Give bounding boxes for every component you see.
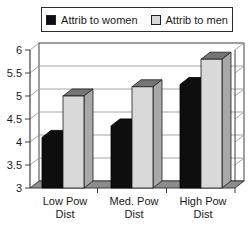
gridline-left-wall bbox=[30, 158, 39, 165]
bar-men-0 bbox=[63, 96, 84, 188]
y-tick-label: 5 bbox=[16, 90, 22, 102]
gridline-left-wall bbox=[30, 66, 39, 73]
y-tick-label: 3.5 bbox=[7, 159, 22, 171]
gridline-left-wall bbox=[30, 135, 39, 142]
gridline-left-wall bbox=[30, 89, 39, 96]
gridline-left-wall bbox=[30, 43, 39, 50]
y-tick-label: 5.5 bbox=[7, 67, 22, 79]
y-tick-label: 6 bbox=[16, 44, 22, 56]
y-tick-label: 4 bbox=[16, 136, 22, 148]
y-tick-label: 4.5 bbox=[7, 113, 22, 125]
bar-side-men-1 bbox=[153, 80, 162, 188]
bar-chart: 65.554.543.53Low PowDistMed. PowDistHigh… bbox=[0, 0, 248, 228]
figure: Attrib to women Attrib to men 65.554.543… bbox=[0, 0, 248, 228]
x-category-label: High Pow bbox=[179, 195, 226, 207]
x-category-label: Med. Pow bbox=[110, 195, 159, 207]
x-category-label: Dist bbox=[194, 208, 213, 220]
bar-men-2 bbox=[201, 59, 222, 188]
x-category-label: Dist bbox=[125, 208, 144, 220]
bar-side-men-0 bbox=[84, 89, 93, 188]
bar-men-1 bbox=[132, 87, 153, 188]
x-category-label: Low Pow bbox=[43, 195, 88, 207]
gridline-left-wall bbox=[30, 112, 39, 119]
y-tick-label: 3 bbox=[16, 182, 22, 194]
bar-side-men-2 bbox=[222, 52, 231, 188]
x-category-label: Dist bbox=[56, 208, 75, 220]
